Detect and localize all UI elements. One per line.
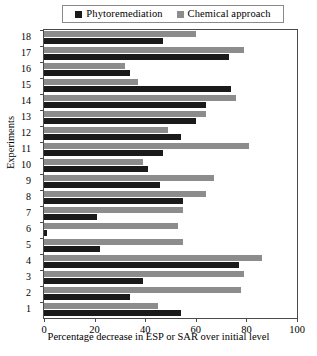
- y-axis-tick-label: 5: [26, 240, 31, 250]
- bar-group: [44, 47, 297, 63]
- bars-layer: [44, 30, 297, 318]
- y-axis-title: Experiments: [5, 73, 16, 213]
- bar-phytoremediation: [44, 70, 130, 76]
- bar-phytoremediation: [44, 214, 97, 220]
- bar-group: [44, 63, 297, 79]
- bar-group: [44, 191, 297, 207]
- bar-group: [44, 303, 297, 319]
- bar-phytoremediation: [44, 278, 143, 284]
- x-axis-tick-mark: [145, 318, 146, 322]
- y-axis-tick-label: 12: [21, 128, 31, 138]
- y-axis-tick-mark: [40, 62, 44, 63]
- legend-entry-phytoremediation: Phytoremediation: [75, 9, 162, 20]
- bar-chemical-approach: [44, 111, 206, 117]
- bar-phytoremediation: [44, 166, 148, 172]
- y-axis-tick-label: 17: [21, 48, 31, 58]
- bar-chemical-approach: [44, 79, 138, 85]
- x-axis-tick-mark: [44, 318, 45, 322]
- bar-chemical-approach: [44, 255, 262, 261]
- bar-group: [44, 79, 297, 95]
- legend-swatch-phytoremediation: [75, 11, 82, 18]
- legend-label-chemical-approach: Chemical approach: [188, 9, 271, 20]
- bar-chemical-approach: [44, 271, 244, 277]
- bar-chemical-approach: [44, 239, 183, 245]
- y-axis-tick-label: 7: [26, 208, 31, 218]
- y-axis-tick-label: 2: [26, 288, 31, 298]
- y-axis-tick-mark: [40, 94, 44, 95]
- x-axis-tick-mark: [297, 318, 298, 322]
- x-axis-title: Percentage decrease in ESP or SAR over i…: [0, 331, 317, 342]
- bar-group: [44, 111, 297, 127]
- y-axis-tick-mark: [40, 206, 44, 207]
- bar-phytoremediation: [44, 246, 100, 252]
- legend-label-phytoremediation: Phytoremediation: [86, 9, 162, 20]
- x-axis-tick-mark: [246, 318, 247, 322]
- bar-phytoremediation: [44, 198, 183, 204]
- bar-phytoremediation: [44, 102, 206, 108]
- bar-chemical-approach: [44, 159, 143, 165]
- bar-chemical-approach: [44, 207, 183, 213]
- y-axis-tick-mark: [40, 78, 44, 79]
- y-axis-tick-mark: [40, 158, 44, 159]
- y-axis-tick-label: 6: [26, 224, 31, 234]
- y-axis-tick-label: 14: [21, 96, 31, 106]
- bar-group: [44, 271, 297, 287]
- y-axis-tick-label: 4: [26, 256, 31, 266]
- bar-group: [44, 207, 297, 223]
- x-axis-tick-mark: [95, 318, 96, 322]
- y-axis-tick-mark: [40, 270, 44, 271]
- x-axis-tick-mark: [196, 318, 197, 322]
- bar-chemical-approach: [44, 95, 236, 101]
- y-axis-tick-mark: [40, 222, 44, 223]
- bar-phytoremediation: [44, 38, 163, 44]
- y-axis-tick-mark: [40, 174, 44, 175]
- bar-phytoremediation: [44, 230, 47, 236]
- bar-chemical-approach: [44, 175, 214, 181]
- bar-phytoremediation: [44, 182, 160, 188]
- bar-group: [44, 31, 297, 47]
- y-axis-tick-mark: [40, 302, 44, 303]
- bar-group: [44, 175, 297, 191]
- bar-chemical-approach: [44, 47, 244, 53]
- bar-phytoremediation: [44, 310, 181, 316]
- y-axis-tick-mark: [40, 30, 44, 31]
- y-axis-tick-label: 10: [21, 160, 31, 170]
- bar-group: [44, 287, 297, 303]
- bar-phytoremediation: [44, 118, 196, 124]
- bar-phytoremediation: [44, 262, 239, 268]
- bar-phytoremediation: [44, 150, 163, 156]
- bar-group: [44, 159, 297, 175]
- y-axis-tick-mark: [40, 238, 44, 239]
- plot-area: 020406080100: [43, 29, 298, 319]
- y-axis-tick-label: 1: [26, 304, 31, 314]
- y-axis-tick-mark: [40, 142, 44, 143]
- y-axis-tick-label: 18: [21, 32, 31, 42]
- chart-legend: Phytoremediation Chemical approach: [62, 5, 284, 23]
- bar-chemical-approach: [44, 143, 249, 149]
- bar-chemical-approach: [44, 303, 158, 309]
- y-axis-tick-label: 8: [26, 192, 31, 202]
- bar-group: [44, 127, 297, 143]
- y-axis-tick-label: 3: [26, 272, 31, 282]
- bar-chemical-approach: [44, 31, 196, 37]
- bar-group: [44, 239, 297, 255]
- bar-chemical-approach: [44, 63, 125, 69]
- y-axis-tick-mark: [40, 46, 44, 47]
- bar-chemical-approach: [44, 127, 168, 133]
- y-axis-tick-mark: [40, 126, 44, 127]
- y-axis-tick-label: 16: [21, 64, 31, 74]
- bar-chemical-approach: [44, 287, 241, 293]
- bar-group: [44, 223, 297, 239]
- bar-chemical-approach: [44, 191, 206, 197]
- bar-phytoremediation: [44, 134, 181, 140]
- bar-chemical-approach: [44, 223, 178, 229]
- bar-phytoremediation: [44, 54, 229, 60]
- y-axis-tick-mark: [40, 286, 44, 287]
- bar-phytoremediation: [44, 294, 130, 300]
- chart-figure: Phytoremediation Chemical approach 12345…: [0, 0, 317, 356]
- bar-group: [44, 95, 297, 111]
- y-axis-tick-label: 9: [26, 176, 31, 186]
- y-axis-tick-label: 15: [21, 80, 31, 90]
- y-axis-tick-label: 11: [21, 144, 31, 154]
- y-axis-tick-mark: [40, 254, 44, 255]
